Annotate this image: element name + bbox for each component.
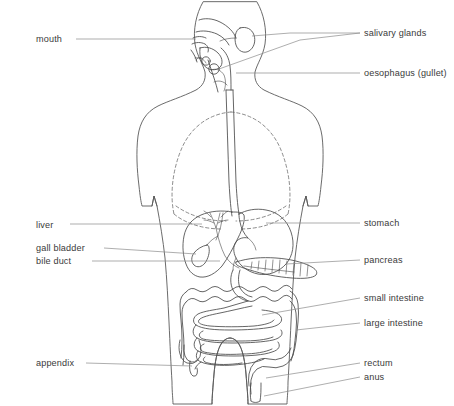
leader-appendix bbox=[86, 363, 192, 366]
oesophagus-group bbox=[226, 90, 239, 216]
parotid-gland bbox=[235, 27, 255, 52]
label-oesophagus: oesophagus (gullet) bbox=[364, 68, 447, 78]
pancreas-group bbox=[231, 258, 317, 301]
sublingual-gland bbox=[202, 57, 210, 65]
label-liver: liver bbox=[36, 220, 53, 230]
parotid-duct bbox=[220, 38, 236, 41]
leader-salivary-gland-parotid bbox=[252, 33, 360, 36]
label-rectum: rectum bbox=[364, 358, 393, 368]
stomach-cardiac-notch bbox=[248, 238, 256, 250]
leader-lines bbox=[70, 33, 360, 396]
small-intestine-inner-4 bbox=[203, 357, 242, 365]
body-outline bbox=[137, 2, 323, 404]
label-pancreas: pancreas bbox=[364, 255, 403, 265]
small-intestine-inner-3 bbox=[200, 344, 272, 354]
leader-gall-bladder bbox=[104, 248, 196, 254]
leader-anus bbox=[264, 377, 360, 396]
upper-lip bbox=[193, 37, 206, 39]
right-leg-inseam bbox=[230, 338, 248, 404]
anatomy-illustration: mouth liver gall bladder bile duct appen… bbox=[0, 0, 454, 406]
left-rib-cage-outline bbox=[172, 112, 231, 214]
right-rib-cage-outline bbox=[231, 112, 290, 214]
duodenum-inner bbox=[239, 270, 253, 297]
right-lower-rib-arc bbox=[236, 206, 286, 221]
cystic-duct bbox=[207, 236, 218, 245]
left-leg-inseam bbox=[212, 338, 230, 404]
label-appendix: appendix bbox=[36, 358, 74, 368]
liver-lobe-notch bbox=[216, 213, 223, 240]
stomach bbox=[234, 209, 293, 274]
label-bile-duct: bile duct bbox=[36, 256, 72, 266]
label-large-intestine: large intestine bbox=[364, 318, 423, 328]
nasal-cavity-roof bbox=[199, 19, 236, 38]
small-intestine-inner-1 bbox=[198, 306, 274, 327]
label-layer: mouth liver gall bladder bile duct appen… bbox=[36, 28, 447, 382]
salivary-glands-group bbox=[196, 27, 255, 74]
small-intestine-inner-2 bbox=[199, 331, 273, 341]
label-salivary-glands: salivary glands bbox=[364, 28, 427, 38]
large-intestine-group bbox=[179, 285, 299, 394]
ileum-to-caecum bbox=[195, 362, 201, 369]
hepatic-duct-branch-3 bbox=[204, 220, 214, 223]
rectum-right-wall bbox=[260, 383, 261, 401]
label-small-intestine: small intestine bbox=[364, 293, 424, 303]
anus bbox=[251, 401, 260, 403]
hepatic-duct-branch-6 bbox=[221, 211, 228, 217]
gall-bladder bbox=[192, 245, 210, 267]
rectum-anus-group bbox=[250, 383, 261, 403]
ascending-colon-outer bbox=[180, 292, 186, 358]
body-silhouette bbox=[137, 2, 323, 404]
label-stomach: stomach bbox=[364, 218, 399, 228]
oesophagus-right-wall bbox=[233, 90, 239, 214]
label-anus: anus bbox=[364, 372, 385, 382]
stomach-group bbox=[233, 209, 293, 274]
label-mouth: mouth bbox=[36, 34, 62, 44]
head-and-mouth-region bbox=[191, 19, 236, 92]
label-gall-bladder: gall bladder bbox=[36, 243, 85, 253]
leader-pancreas bbox=[286, 260, 360, 264]
leader-large-intestine bbox=[296, 323, 360, 330]
leader-rectum bbox=[266, 363, 360, 378]
transverse-colon-lower bbox=[186, 295, 292, 302]
gall-bladder-group bbox=[192, 245, 210, 267]
digestive-system-diagram: mouth liver gall bladder bile duct appen… bbox=[0, 0, 454, 406]
pancreas bbox=[236, 258, 317, 279]
left-armpit-crease bbox=[152, 196, 157, 206]
right-armpit-crease bbox=[303, 196, 308, 206]
oesophagus-left-wall bbox=[226, 90, 232, 216]
ascending-colon-inner bbox=[182, 302, 186, 365]
transverse-colon-upper bbox=[186, 285, 292, 292]
